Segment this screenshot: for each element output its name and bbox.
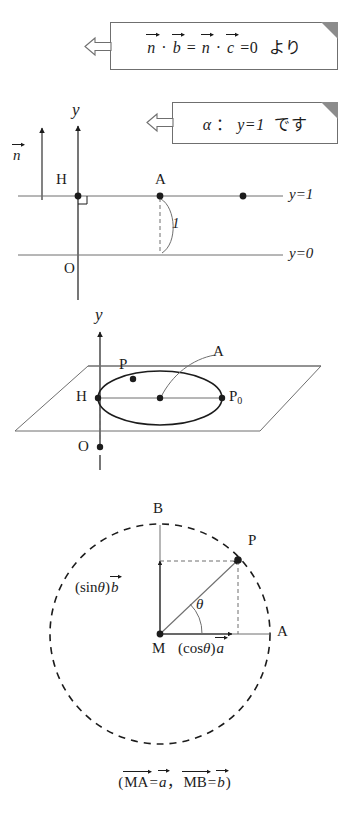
sin-theta: θ (98, 579, 105, 595)
vector-MA: MA (123, 774, 149, 791)
note-plane-alpha: α ： y=1 です (172, 102, 338, 144)
note-dot-product: n · b = n · c =0 より (110, 22, 338, 70)
diagram3-point-M-label: M (152, 641, 165, 656)
note-tail-yori: より (263, 39, 302, 56)
diagram2-group (15, 332, 321, 470)
vector-b-caption: b (216, 774, 226, 791)
point-M-dot (157, 631, 164, 638)
diagram3-angle-label: θ (196, 597, 203, 612)
vector-a-caption: a (158, 774, 168, 791)
vector-b: b (172, 39, 183, 57)
sin-prefix: (sin (75, 579, 98, 595)
diagram3-point-P-label: P (248, 533, 256, 548)
vector-n-1: n (146, 39, 157, 57)
point-H-dot-2 (95, 395, 101, 401)
equals-zero: =0 (240, 39, 258, 56)
diagram2-y-axis-label: y (95, 306, 103, 323)
diagram1-point-H-label: H (56, 172, 67, 187)
leader-line-A (161, 355, 215, 397)
point-extra-dot (240, 193, 247, 200)
note-tail-desu: です (269, 116, 307, 133)
vector-n-glyph: n (12, 148, 22, 163)
point-P-dot (130, 376, 136, 382)
note-dot-product-text: n · b = n · c =0 より (146, 34, 301, 58)
diagram1-vector-n-label: n (12, 148, 22, 163)
diagram3-group (50, 524, 270, 744)
dot-operator-2: · (216, 39, 222, 56)
point-P0-dot (219, 395, 225, 401)
diagram2-point-H-label: H (76, 389, 87, 404)
vector-MB: MB (182, 774, 207, 791)
diagram1-group (18, 126, 283, 300)
caption-comma: ， (167, 774, 182, 790)
diagram1-point-O-label: O (64, 261, 75, 276)
note-plane-alpha-text: α ： y=1 です (203, 111, 307, 135)
caption-equals-1: = (149, 774, 157, 790)
equation-y-equals-1: y=1 (237, 116, 264, 133)
diagram3-cos-theta-a-label: (cosθ)a (178, 641, 225, 656)
point-P0-subscript: 0 (237, 395, 242, 406)
diagram3-point-B-label: B (153, 501, 163, 516)
folded-corner-icon (321, 22, 338, 39)
vector-n-2: n (201, 39, 212, 57)
vector-c: c (226, 39, 236, 57)
diagram1-label-y1: y=1 (289, 187, 313, 202)
diagram1-distance-label: 1 (172, 216, 180, 231)
vector-a-glyph: a (215, 641, 225, 656)
diagram1-point-A-label: A (155, 172, 166, 187)
caption-equals-2: = (208, 774, 216, 790)
diagram2-point-P0-label: P0 (229, 389, 242, 404)
diagram3-point-A-label: A (277, 624, 288, 639)
alpha-symbol: α (203, 116, 212, 133)
point-P-dot-3 (234, 556, 242, 564)
equals-1: = (187, 39, 197, 56)
colon-symbol: ： (216, 116, 233, 133)
folded-corner-icon-2 (321, 102, 338, 119)
caption-close-paren: ) (226, 774, 231, 790)
diagram1-label-y0: y=0 (289, 246, 313, 261)
figure-page: n · b = n · c =0 より α ： y=1 です y n H A O (0, 0, 349, 831)
diagram2-point-P-label: P (119, 357, 127, 372)
note-2-arrow-icon (146, 112, 174, 133)
diagram2-point-A-label: A (213, 344, 224, 359)
diagram3-sin-theta-b-label: (sinθ)b (75, 580, 119, 595)
diagram2-point-O-label: O (78, 439, 89, 454)
cos-prefix: (cos (178, 640, 203, 656)
point-A-dot-2 (157, 395, 163, 401)
figure-caption: (MA=a，MB=b) (0, 770, 349, 791)
point-A-dot (157, 193, 164, 200)
point-O-dot-2 (97, 444, 103, 450)
point-H-dot (75, 193, 82, 200)
note-1-arrow-icon (84, 36, 112, 57)
dot-operator-1: · (161, 39, 167, 56)
vector-b-glyph: b (110, 580, 120, 595)
diagram1-y-axis-label: y (72, 101, 80, 118)
